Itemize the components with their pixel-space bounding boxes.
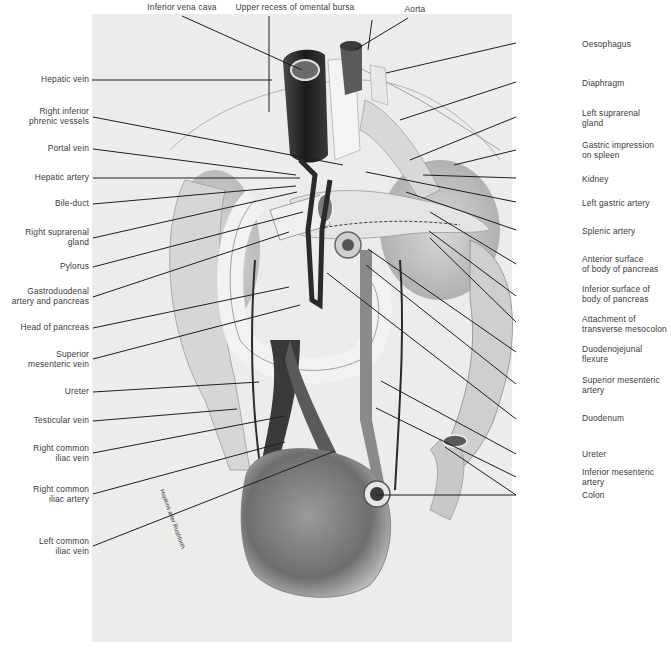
label-right-suprarenal-gland: Right suprarenal gland [0, 228, 89, 247]
label-oesophagus: Oesophagus [582, 40, 631, 50]
label-superior-mesenteric-artery: Superior mesenteric artery [582, 376, 660, 395]
label-right-common-iliac-artery: Right common iliac artery [0, 485, 89, 504]
label-left-gastric-artery: Left gastric artery [582, 199, 650, 209]
label-head-of-pancreas: Head of pancreas [0, 323, 89, 333]
label-ureter-left: Ureter [582, 450, 606, 460]
label-colon: Colon [582, 491, 605, 501]
label-right-inferior-phrenic-vessels: Right inferior phrenic vessels [0, 107, 89, 126]
label-duodenojejunal-flexure: Duodenojejunal flexure [582, 345, 642, 364]
label-gastroduodenal-artery-pancreas: Gastroduodenal artery and pancreas [0, 287, 89, 306]
label-bile-duct: Bile-duct [0, 199, 89, 209]
label-hepatic-artery: Hepatic artery [0, 173, 89, 183]
anatomy-illustration: Hopkins after Rushforth [0, 0, 671, 652]
label-portal-vein: Portal vein [0, 144, 89, 154]
label-ureter-right: Ureter [0, 387, 89, 397]
label-superior-mesenteric-vein: Superior mesenteric vein [0, 350, 89, 369]
label-kidney: Kidney [582, 175, 609, 185]
label-upper-recess-omental-bursa: Upper recess of omental bursa [225, 3, 365, 13]
label-inferior-vena-cava: Inferior vena cava [142, 3, 222, 13]
label-hepatic-vein: Hepatic vein [0, 75, 89, 85]
label-inferior-mesenteric-artery: Inferior mesenteric artery [582, 468, 654, 487]
label-attachment-transverse-mesocolon: Attachment of transverse mesocolon [582, 315, 667, 334]
label-right-common-iliac-vein: Right common iliac vein [0, 444, 89, 463]
label-splenic-artery: Splenic artery [582, 227, 635, 237]
label-left-common-iliac-vein: Left common iliac vein [0, 537, 89, 556]
label-gastric-impression-spleen: Gastric impression on spleen [582, 141, 654, 160]
label-inferior-surface-body-pancreas: Inferior surface of body of pancreas [582, 285, 650, 304]
label-duodenum: Duodenum [582, 414, 624, 424]
label-anterior-surface-body-pancreas: Anterior surface of body of pancreas [582, 255, 658, 274]
label-left-suprarenal-gland: Left suprarenal gland [582, 109, 640, 128]
label-testicular-vein: Testicular vein [0, 416, 89, 426]
label-diaphragm: Diaphragm [582, 79, 624, 89]
label-aorta: Aorta [385, 5, 445, 15]
bladder-shape [241, 449, 391, 598]
label-pylorus: Pylorus [0, 262, 89, 272]
